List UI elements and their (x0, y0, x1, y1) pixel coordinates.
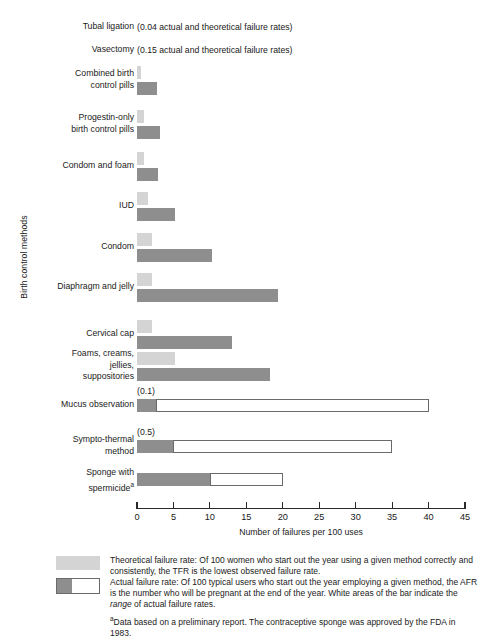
bar-theoretical (137, 273, 152, 286)
bar-theoretical (137, 110, 144, 123)
legend-swatch-theoretical (56, 556, 100, 570)
row-label: Diaphragm and jelly (6, 281, 134, 292)
row-label-superscript: a (130, 481, 134, 488)
legend-text-actual: Actual failure rate: Of 100 typical user… (110, 577, 478, 611)
legend-swatch-actual-fill (57, 579, 72, 593)
x-axis-ticklabel-0: 0 (122, 512, 152, 522)
row-label: Tubal ligation (6, 21, 134, 32)
x-axis-line (137, 508, 465, 509)
x-axis-tick-25 (319, 502, 320, 509)
x-axis-tick-15 (246, 502, 247, 509)
bar-theoretical (137, 66, 141, 79)
bar-actual (137, 399, 156, 412)
bar-range (156, 399, 429, 412)
x-axis-ticklabel-20: 20 (268, 512, 298, 522)
legend-text-theoretical: Theoretical failure rate: Of 100 women w… (110, 555, 478, 577)
chart-figure: Birth control methods Tubal ligation(0.0… (0, 0, 483, 642)
legend-actual-italic: range (110, 599, 132, 609)
x-axis-tick-40 (428, 502, 429, 509)
bar-theoretical (137, 352, 175, 365)
x-axis-ticklabel-15: 15 (231, 512, 261, 522)
row-label: Combined birth control pills (6, 68, 134, 91)
row-label: Sponge with spermicidea (6, 467, 134, 494)
bar-range (210, 473, 283, 486)
bar-theoretical (137, 233, 152, 246)
bar-actual (137, 368, 270, 381)
bar-range (173, 440, 392, 453)
row-label: Condom and foam (6, 160, 134, 171)
legend-swatch-actual (56, 578, 100, 594)
bar-theoretical (137, 192, 148, 205)
bar-actual (137, 82, 157, 95)
bar-actual (137, 440, 173, 453)
row-note: (0.1) (137, 386, 155, 397)
row-label: IUD (6, 200, 134, 211)
x-axis-ticklabel-35: 35 (377, 512, 407, 522)
row-label: Condom (6, 241, 134, 252)
x-axis-tick-35 (392, 502, 393, 509)
legend-actual-part2: of actual failure rates. (132, 599, 216, 609)
row-label: Mucus observation (6, 399, 134, 410)
x-axis-ticklabel-30: 30 (341, 512, 371, 522)
x-axis-ticklabel-45: 45 (450, 512, 480, 522)
row-label: Foams, creams, jellies, suppositories (6, 348, 134, 382)
legend-actual-part1: Actual failure rate: Of 100 typical user… (110, 577, 477, 598)
bar-theoretical (137, 320, 152, 333)
bar-actual (137, 168, 158, 181)
x-axis-ticklabel-25: 25 (304, 512, 334, 522)
bar-actual (137, 473, 210, 486)
x-axis-tick-10 (209, 502, 210, 509)
row-label: Sympto-thermal method (6, 434, 134, 457)
row-label: Vasectomy (6, 44, 134, 55)
x-axis-title: Number of failures per 100 uses (137, 527, 465, 537)
x-axis-ticklabel-5: 5 (158, 512, 188, 522)
x-axis-ticklabel-10: 10 (195, 512, 225, 522)
x-axis-tick-45 (464, 502, 465, 509)
row-note: (0.5) (137, 427, 155, 438)
bar-actual (137, 289, 278, 302)
bar-actual (137, 336, 232, 349)
row-label: Progestin-only birth control pills (6, 112, 134, 135)
bar-theoretical (137, 152, 144, 165)
row-label: Cervical cap (6, 328, 134, 339)
x-axis-tick-5 (173, 502, 174, 509)
footnote-body: Data based on a preliminary report. The … (110, 617, 456, 638)
row-note: (0.04 actual and theoretical failure rat… (137, 22, 293, 33)
bar-actual (137, 208, 175, 221)
x-axis-tick-30 (355, 502, 356, 509)
x-axis-tick-0 (136, 502, 137, 509)
footnote-text: aData based on a preliminary report. The… (110, 613, 478, 639)
x-axis-ticklabel-40: 40 (414, 512, 444, 522)
x-axis-tick-20 (282, 502, 283, 509)
bar-actual (137, 249, 212, 262)
row-note: (0.15 actual and theoretical failure rat… (137, 45, 293, 56)
bar-actual (137, 126, 160, 139)
